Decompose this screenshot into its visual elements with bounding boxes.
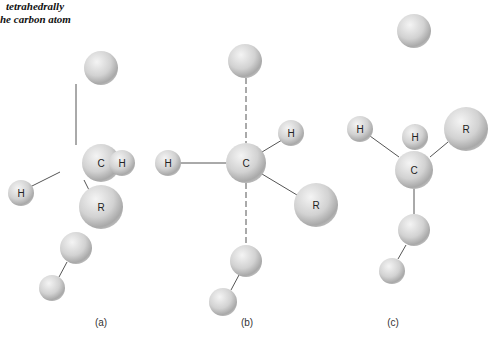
atom-r: R bbox=[79, 185, 123, 229]
atom-r: R bbox=[444, 107, 488, 151]
atom-h: H bbox=[347, 116, 373, 142]
atom-label: R bbox=[97, 202, 104, 213]
atom-label: H bbox=[118, 158, 125, 169]
atom-sphere bbox=[379, 258, 405, 284]
atom-h: H bbox=[278, 120, 304, 146]
tetrahedral-carbon-diagram: CHHR(a)CHHR(b)HHRC(c) bbox=[0, 0, 490, 341]
atom-h: H bbox=[109, 150, 135, 176]
bond-line bbox=[370, 136, 399, 157]
bond-line bbox=[430, 142, 448, 157]
panel-label: (a) bbox=[95, 317, 107, 328]
atom-label: C bbox=[97, 158, 104, 169]
atom-sphere bbox=[397, 14, 431, 48]
atom-sphere bbox=[228, 44, 262, 78]
atom-label: H bbox=[287, 128, 294, 139]
atom-sphere bbox=[209, 288, 237, 316]
atom-label: H bbox=[164, 158, 171, 169]
atom-c: C bbox=[226, 143, 266, 183]
bond-line bbox=[30, 172, 60, 187]
atom-unlabeled bbox=[230, 245, 262, 277]
molecule-panel-c: HHRC(c) bbox=[347, 14, 488, 328]
bond-line bbox=[84, 180, 89, 190]
atom-label: C bbox=[242, 158, 249, 169]
atom-r: R bbox=[294, 183, 338, 227]
atom-unlabeled bbox=[60, 232, 92, 264]
atom-label: R bbox=[312, 200, 319, 211]
atom-unlabeled bbox=[397, 14, 431, 48]
atom-sphere bbox=[230, 245, 262, 277]
atom-unlabeled bbox=[379, 258, 405, 284]
bond-line bbox=[398, 245, 406, 259]
atom-sphere bbox=[39, 275, 65, 301]
bond-line bbox=[231, 275, 239, 290]
atom-label: H bbox=[356, 124, 363, 135]
atom-h: H bbox=[402, 124, 428, 150]
atom-unlabeled bbox=[228, 44, 262, 78]
atom-unlabeled bbox=[398, 214, 430, 246]
bond-line bbox=[59, 262, 67, 277]
molecule-panel-b: CHHR(b) bbox=[155, 44, 338, 328]
atom-unlabeled bbox=[84, 51, 118, 85]
atom-label: H bbox=[411, 132, 418, 143]
atom-h: H bbox=[155, 150, 181, 176]
atom-sphere bbox=[84, 51, 118, 85]
bond-line bbox=[262, 174, 297, 195]
atom-unlabeled bbox=[39, 275, 65, 301]
bond-line bbox=[262, 140, 282, 152]
atom-label: C bbox=[410, 165, 417, 176]
panel-label: (c) bbox=[387, 317, 399, 328]
atom-h: H bbox=[8, 180, 34, 206]
molecule-panel-a: CHHR(a) bbox=[8, 51, 135, 328]
atom-label: H bbox=[17, 188, 24, 199]
atom-sphere bbox=[60, 232, 92, 264]
atom-label: R bbox=[462, 124, 469, 135]
atom-unlabeled bbox=[209, 288, 237, 316]
atom-c: C bbox=[395, 151, 433, 189]
panel-label: (b) bbox=[241, 317, 253, 328]
atom-sphere bbox=[398, 214, 430, 246]
